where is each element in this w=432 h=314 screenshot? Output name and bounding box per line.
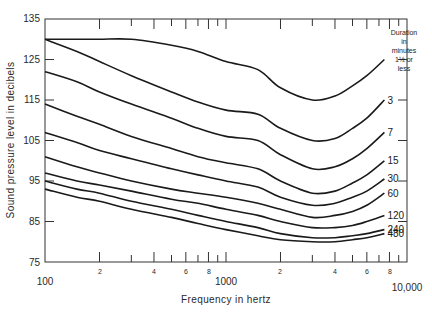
x-minor-label-600: 6 xyxy=(184,268,188,275)
curve-60-minutes xyxy=(45,157,384,218)
x-tick-label-10000: 10,000 xyxy=(392,282,423,293)
x-minor-label-6000: 6 xyxy=(365,268,369,275)
x-tick-label-1000: 1000 xyxy=(215,276,238,287)
curve-7-minutes xyxy=(45,72,384,170)
curve-label-3: 3 xyxy=(387,95,393,106)
y-tick-label-105: 105 xyxy=(23,135,40,146)
y-tick-label-115: 115 xyxy=(24,94,40,105)
curve-label-1-or-less: less xyxy=(398,65,411,72)
y-tick-label-85: 85 xyxy=(29,216,41,227)
x-tick-label-100: 100 xyxy=(37,276,54,287)
noise-exposure-chart: 1½ orless37153060120240480 135 125 115 1… xyxy=(0,0,432,314)
legend-title: Duration in minutes xyxy=(391,29,418,54)
x-minor-label-200: 2 xyxy=(98,268,102,275)
x-minor-label-4000: 4 xyxy=(333,268,337,275)
x-minor-label-2000: 2 xyxy=(278,268,282,275)
curve-label-7: 7 xyxy=(387,127,393,138)
y-tick-label-125: 125 xyxy=(23,54,40,65)
curve-240-minutes xyxy=(45,181,384,238)
x-minor-label-800: 8 xyxy=(207,268,211,275)
curve-labels: 1½ orless37153060120240480 xyxy=(387,56,413,239)
y-axis-title: Sound pressure level in decibels xyxy=(5,62,16,219)
legend-title-line2: in xyxy=(401,38,407,45)
curve-label-30: 30 xyxy=(387,173,399,184)
y-tick-label-95: 95 xyxy=(29,175,41,186)
curve-label-1-or-less: 1½ or xyxy=(395,56,414,63)
duration-curves xyxy=(45,39,384,242)
curve-30-minutes xyxy=(45,132,384,205)
y-tick-label-75: 75 xyxy=(29,257,41,268)
legend-title-line1: Duration xyxy=(391,29,418,36)
x-minor-label-8000: 8 xyxy=(388,268,392,275)
curve-label-15: 15 xyxy=(387,155,399,166)
x-tick-labels: 100 1000 10,000 2 4 6 8 2 4 6 8 xyxy=(37,268,423,293)
y-tick-labels: 135 125 115 105 95 85 75 xyxy=(23,13,40,268)
curve-label-60: 60 xyxy=(387,188,399,199)
curve-label-480: 480 xyxy=(387,228,404,239)
x-minor-label-400: 4 xyxy=(152,268,156,275)
y-tick-label-135: 135 xyxy=(23,13,40,24)
legend-title-line3: minutes xyxy=(392,47,417,54)
curve-label-120: 120 xyxy=(387,210,404,221)
x-axis-title: Frequency in hertz xyxy=(181,294,271,305)
